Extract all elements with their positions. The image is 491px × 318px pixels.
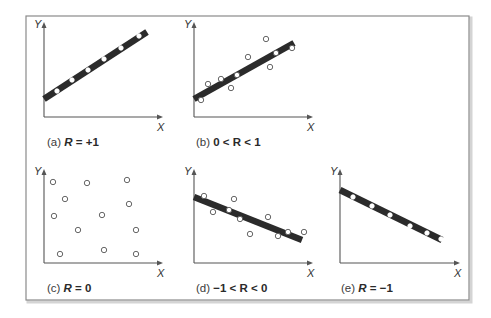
panel-caption: (b) 0 < R < 1: [196, 136, 261, 148]
panel-caption: (c) R = 0: [47, 282, 91, 294]
data-point: [351, 195, 355, 199]
data-point: [86, 68, 90, 72]
panel-caption: (e) R = −1: [341, 282, 393, 294]
data-point: [245, 54, 250, 59]
y-axis-label: Y: [330, 165, 338, 177]
data-point: [210, 209, 215, 214]
y-axis-label: Y: [34, 18, 42, 30]
caption-formula: R = −1: [358, 282, 393, 294]
data-point: [55, 89, 59, 93]
data-point: [62, 196, 67, 201]
data-point: [265, 214, 270, 219]
data-point: [70, 78, 74, 82]
y-axis-label: Y: [184, 165, 192, 177]
data-point: [388, 213, 392, 217]
data-point: [226, 207, 231, 212]
data-point: [263, 36, 268, 41]
data-point: [84, 180, 89, 185]
data-point: [57, 251, 62, 256]
caption-formula: 0 < R < 1: [213, 136, 261, 148]
data-point: [231, 196, 236, 201]
correlation-figure: YX(a) R = +1YX(b) 0 < R < 1YX(c) R = 0YX…: [0, 0, 491, 318]
data-point: [75, 227, 80, 232]
data-point: [218, 76, 223, 81]
data-point: [370, 204, 374, 208]
data-point: [247, 231, 252, 236]
y-axis-label: Y: [184, 18, 192, 30]
data-point: [408, 224, 412, 228]
data-point: [119, 46, 123, 50]
data-point: [237, 216, 242, 221]
data-point: [50, 179, 55, 184]
data-point: [228, 85, 233, 90]
caption-prefix: (c): [47, 282, 64, 294]
caption-prefix: (e): [341, 282, 358, 294]
data-point: [133, 227, 138, 232]
x-axis-label: X: [156, 121, 165, 133]
x-axis-label: X: [306, 121, 315, 133]
data-point: [267, 64, 272, 69]
x-axis-label: X: [156, 267, 165, 279]
data-point: [205, 81, 210, 86]
data-point: [124, 177, 129, 182]
data-point: [425, 231, 429, 235]
panel-caption: (d) −1 < R < 0: [196, 282, 267, 294]
caption-prefix: (a): [47, 136, 64, 148]
caption-formula: R = +1: [64, 136, 99, 148]
x-axis-label: X: [306, 267, 315, 279]
x-axis-label: X: [453, 267, 462, 279]
data-point: [273, 50, 278, 55]
data-point: [101, 247, 106, 252]
data-point: [99, 212, 104, 217]
caption-prefix: (d): [196, 282, 213, 294]
y-axis-label: Y: [34, 165, 42, 177]
caption-formula: −1 < R < 0: [213, 282, 267, 294]
caption-formula: R = 0: [64, 282, 92, 294]
data-point: [285, 229, 290, 234]
data-point: [301, 229, 306, 234]
data-point: [133, 251, 138, 256]
data-point: [234, 72, 239, 77]
data-point: [289, 45, 294, 50]
data-point: [439, 237, 443, 241]
caption-prefix: (b): [196, 136, 213, 148]
data-point: [275, 233, 280, 238]
data-point: [137, 34, 141, 38]
data-point: [102, 57, 106, 61]
panel-caption: (a) R = +1: [47, 136, 99, 148]
data-point: [51, 213, 56, 218]
data-point: [126, 201, 131, 206]
data-point: [201, 193, 206, 198]
data-point: [198, 97, 203, 102]
